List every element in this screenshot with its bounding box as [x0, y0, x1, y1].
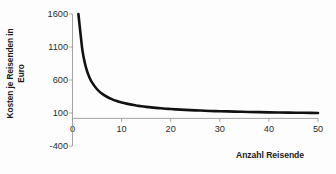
- plot-area: [0, 0, 336, 174]
- x-axis-title: Anzahl Reisende: [236, 150, 304, 160]
- cost-curve: [78, 14, 318, 113]
- x-axis-ticks: [73, 118, 319, 121]
- y-axis-ticks: [69, 14, 72, 146]
- cost-per-traveller-chart: Kosten je Reisenden in Euro -40010060011…: [0, 0, 336, 174]
